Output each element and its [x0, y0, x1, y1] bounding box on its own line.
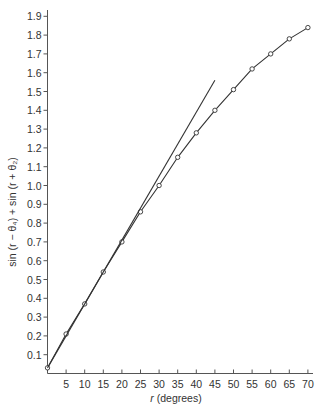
y-tick-label: 1.5 [27, 86, 42, 98]
x-tick-label: 45 [209, 378, 221, 390]
axes [48, 10, 314, 374]
y-tick-label: 0.2 [27, 330, 42, 342]
y-tick-label: 0.9 [27, 198, 42, 210]
x-tick-label: 5 [63, 378, 69, 390]
data-point-marker [176, 155, 180, 159]
data-point-marker [213, 108, 217, 112]
x-tick-label: 40 [190, 378, 202, 390]
x-axis-ticks: 510152025303540455055606570 [63, 370, 314, 390]
plot-area [45, 25, 310, 370]
x-axis-label: r (degrees) [150, 392, 201, 404]
tangent-line [48, 80, 215, 368]
y-tick-label: 1.0 [27, 180, 42, 192]
y-axis-ticks: 0.10.20.30.40.50.60.70.80.91.01.11.21.31… [27, 10, 48, 360]
y-axis-label: sin (r − θ₄) + sin (r + θ₂) [6, 157, 18, 267]
data-point-marker [157, 183, 161, 187]
x-tick-label: 20 [116, 378, 128, 390]
x-tick-label: 10 [79, 378, 91, 390]
y-tick-label: 0.5 [27, 274, 42, 286]
data-point-marker [269, 52, 273, 56]
x-tick-label: 55 [246, 378, 258, 390]
y-tick-label: 0.4 [27, 292, 42, 304]
x-tick-label: 60 [265, 378, 277, 390]
x-tick-label: 15 [97, 378, 109, 390]
y-tick-label: 0.6 [27, 255, 42, 267]
y-tick-label: 1.6 [27, 67, 42, 79]
y-tick-label: 1.8 [27, 29, 42, 41]
y-tick-label: 0.7 [27, 236, 42, 248]
y-tick-label: 1.9 [27, 10, 42, 22]
x-tick-label: 70 [302, 378, 314, 390]
y-tick-label: 1.4 [27, 104, 42, 116]
x-tick-label: 30 [153, 378, 165, 390]
y-tick-label: 1.2 [27, 142, 42, 154]
data-point-marker [306, 25, 310, 29]
data-point-marker [250, 67, 254, 71]
chart: 0.10.20.30.40.50.60.70.80.91.01.11.21.31… [0, 0, 325, 413]
y-tick-label: 1.1 [27, 161, 42, 173]
data-curve [48, 28, 308, 368]
y-tick-label: 0.8 [27, 217, 42, 229]
data-point-marker [194, 131, 198, 135]
data-point-marker [231, 87, 235, 91]
y-tick-label: 1.7 [27, 48, 42, 60]
x-tick-label: 65 [283, 378, 295, 390]
x-tick-label: 50 [228, 378, 240, 390]
x-tick-label: 35 [172, 378, 184, 390]
x-tick-label: 25 [135, 378, 147, 390]
data-point-marker [287, 37, 291, 41]
y-tick-label: 1.3 [27, 123, 42, 135]
y-tick-label: 0.3 [27, 311, 42, 323]
y-tick-label: 0.1 [27, 349, 42, 361]
x-axis-label-unit: (degrees) [154, 392, 202, 404]
